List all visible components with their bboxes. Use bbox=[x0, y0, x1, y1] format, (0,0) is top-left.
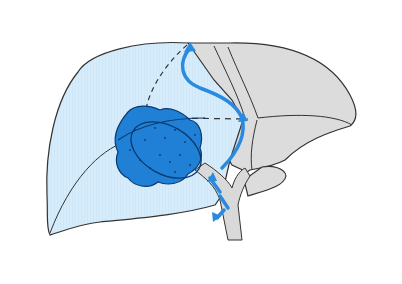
liver-illustration bbox=[0, 0, 402, 284]
caudate-lobe bbox=[244, 166, 286, 196]
liver-diagram bbox=[0, 0, 402, 284]
